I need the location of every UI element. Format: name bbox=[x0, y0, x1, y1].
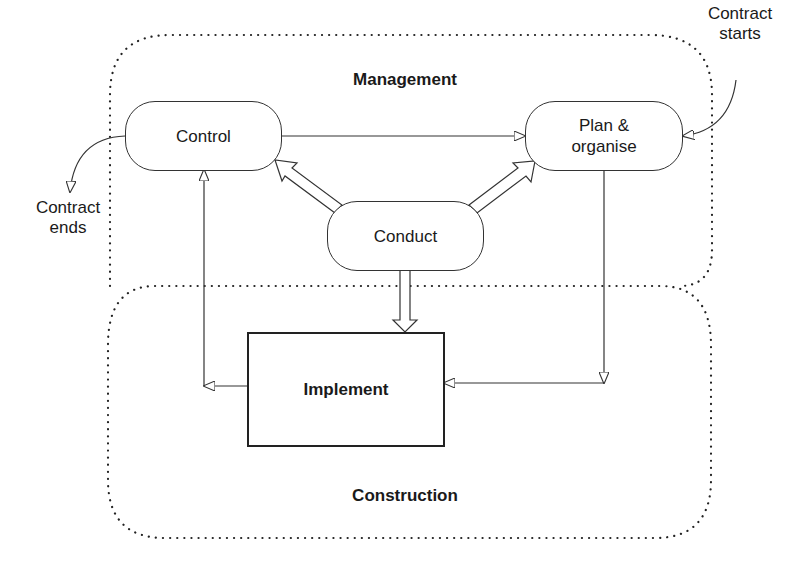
edge-contract-starts bbox=[683, 80, 736, 136]
edge-conduct-to-plan bbox=[469, 161, 535, 213]
construction-label: Construction bbox=[315, 486, 495, 506]
control-label: Control bbox=[176, 126, 231, 147]
implement-label: Implement bbox=[303, 379, 388, 400]
plan-organise-node[interactable]: Plan & organise bbox=[525, 101, 683, 171]
edge-conduct-to-control bbox=[275, 160, 342, 213]
management-label: Management bbox=[330, 70, 480, 90]
contract-ends-label: Contract ends bbox=[18, 198, 118, 238]
conduct-label: Conduct bbox=[374, 226, 437, 247]
implement-node[interactable]: Implement bbox=[247, 332, 445, 447]
conduct-node[interactable]: Conduct bbox=[327, 201, 484, 271]
edge-conduct-to-implement bbox=[393, 270, 417, 332]
control-node[interactable]: Control bbox=[125, 101, 282, 171]
plan-organise-label: Plan & organise bbox=[559, 115, 649, 157]
edge-contract-ends bbox=[70, 136, 125, 192]
contract-starts-label: Contract starts bbox=[690, 4, 790, 44]
